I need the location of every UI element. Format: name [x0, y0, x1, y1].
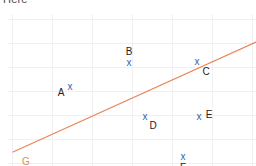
data-point-label-f: F: [180, 163, 186, 166]
data-point-label-d: D: [149, 121, 156, 131]
trend-line-svg: [8, 14, 256, 166]
data-point-b[interactable]: x: [127, 58, 132, 68]
data-point-label-c: C: [202, 67, 209, 77]
data-point-e[interactable]: x: [197, 112, 202, 122]
data-point-c[interactable]: x: [195, 57, 200, 67]
trend-line: [13, 42, 256, 152]
chart-stage: Here G xAxBxCxDxExF: [0, 0, 256, 166]
data-point-label-e: E: [206, 110, 213, 120]
trend-line-label: G: [22, 157, 30, 166]
data-point-label-a: A: [58, 88, 65, 98]
data-point-a[interactable]: x: [68, 82, 73, 92]
plot-panel: G xAxBxCxDxExF: [8, 14, 256, 166]
data-point-d[interactable]: x: [143, 112, 148, 122]
caption-text: Here: [3, 0, 28, 5]
data-point-f[interactable]: x: [181, 152, 186, 162]
data-point-label-b: B: [126, 47, 133, 57]
